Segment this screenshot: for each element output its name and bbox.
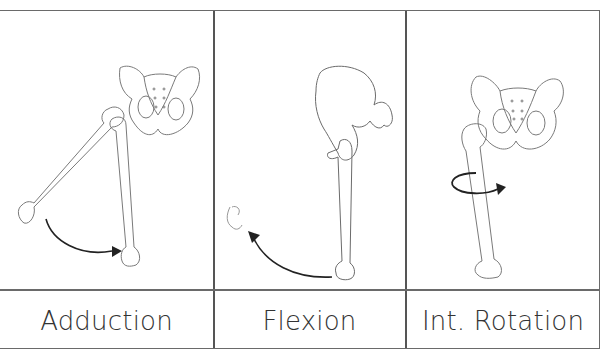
pelvis-icon: [120, 66, 200, 134]
movement-grid: Adduction Flexion Int. Rotation: [0, 10, 600, 349]
panel-adduction: [0, 11, 213, 289]
label-int-rotation: Int. Rotation: [406, 291, 600, 350]
femur-end-flexed-icon: [227, 206, 242, 229]
panel-int-rotation: [406, 11, 600, 289]
label-flexion: Flexion: [214, 291, 405, 350]
femur-lateral-icon: [327, 139, 354, 279]
femur-abducted-icon: [18, 107, 124, 223]
flexion-illustration: [214, 11, 405, 289]
label-adduction: Adduction: [0, 291, 213, 350]
pelvis-lateral-icon: [315, 66, 392, 160]
panel-flexion: [214, 11, 405, 289]
femur-neutral-icon: [110, 117, 140, 266]
pelvis-icon: [471, 76, 563, 149]
curved-arrow-up-left-icon: [248, 231, 332, 277]
adduction-illustration: [0, 11, 213, 289]
curved-arrow-right-icon: [46, 219, 122, 257]
circular-arrow-icon: [452, 173, 506, 195]
int-rotation-illustration: [406, 11, 600, 289]
